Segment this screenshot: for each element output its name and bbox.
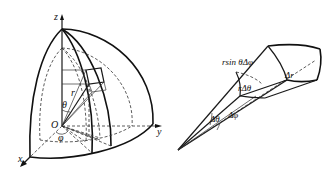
- octant-sphere: z y x O r θ φ: [17, 11, 162, 167]
- volume-element-detail: rsin θΔφ rΔθ Δr Δθ Δφ: [178, 45, 321, 150]
- origin-label: O: [51, 119, 58, 130]
- arc-theta-label: rΔθ: [238, 83, 252, 93]
- z-label: z: [53, 11, 58, 22]
- delta-theta-label: Δθ: [209, 114, 220, 124]
- z-axis-arrow-icon: [60, 14, 64, 20]
- radial-label: Δr: [284, 70, 294, 80]
- theta-label: θ: [62, 99, 67, 110]
- x-label: x: [17, 153, 23, 164]
- phi-label: φ: [58, 132, 64, 143]
- y-label: y: [156, 126, 162, 137]
- delta-phi-label: Δφ: [227, 110, 238, 120]
- arc-phi-label: rsin θΔφ: [222, 57, 253, 67]
- spherical-coordinates-diagram: z y x O r θ φ rsin θΔφ rΔθ Δr Δθ: [0, 0, 336, 181]
- r-label: r: [71, 87, 75, 98]
